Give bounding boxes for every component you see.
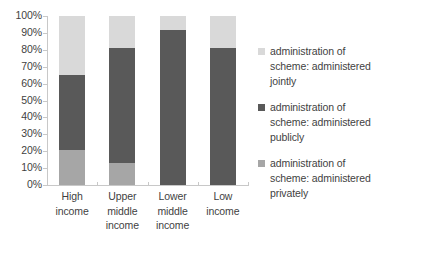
legend-label: administration ofscheme: administeredjoi… <box>270 44 416 89</box>
bar-segment[interactable] <box>109 163 135 185</box>
x-axis-separator <box>47 182 48 186</box>
y-axis-tick-label: 50% <box>0 95 42 106</box>
legend-label-line: scheme: administered <box>270 59 416 74</box>
legend-label-line: publicly <box>270 130 416 145</box>
y-axis-tick-label: 60% <box>0 78 42 89</box>
y-axis-tick-label: 20% <box>0 145 42 156</box>
x-axis-category-line: income <box>148 218 198 233</box>
bar-column[interactable] <box>210 16 236 185</box>
legend-color-swatch <box>258 48 265 55</box>
x-axis-category-line: middle <box>97 204 147 219</box>
x-axis-category-line: High <box>47 189 97 204</box>
y-axis-tick-mark <box>43 67 47 68</box>
y-axis-tick-label: 30% <box>0 128 42 139</box>
bar-segment[interactable] <box>160 30 186 185</box>
x-axis-category-line: income <box>97 218 147 233</box>
bar-segment[interactable] <box>210 48 236 185</box>
x-axis-category-label: Highincome <box>47 189 97 218</box>
y-axis-tick-label: 70% <box>0 61 42 72</box>
legend-label-line: administration of <box>270 100 416 115</box>
legend-label-line: scheme: administered <box>270 115 416 130</box>
legend-label-line: jointly <box>270 74 416 89</box>
legend-item[interactable]: administration ofscheme: administeredpub… <box>258 100 421 145</box>
x-axis-labels: HighincomeUppermiddleincomeLowermiddlein… <box>47 189 249 251</box>
legend-color-swatch <box>258 104 265 111</box>
chart-container: 100%90%80%70%60%50%40%30%20%10%0% Highin… <box>0 0 423 255</box>
legend-label: administration ofscheme: administeredpri… <box>270 156 416 201</box>
bar-segment[interactable] <box>210 16 236 48</box>
bar-column[interactable] <box>109 16 135 185</box>
bar-segment[interactable] <box>59 150 85 185</box>
y-axis-tick-label: 100% <box>0 10 42 21</box>
y-axis-tick-label: 80% <box>0 44 42 55</box>
y-axis-tick-label: 40% <box>0 111 42 122</box>
legend-item[interactable]: administration ofscheme: administeredjoi… <box>258 44 421 89</box>
legend-color-swatch <box>258 160 265 167</box>
x-axis-category-line: middle <box>148 204 198 219</box>
plot-area <box>47 16 248 185</box>
bar-column[interactable] <box>59 16 85 185</box>
legend-item[interactable]: administration ofscheme: administeredpri… <box>258 156 421 201</box>
x-axis-category-label: Uppermiddleincome <box>97 189 147 233</box>
y-axis-tick-mark <box>43 101 47 102</box>
legend-label: administration ofscheme: administeredpub… <box>270 100 416 145</box>
y-axis-tick-mark <box>43 84 47 85</box>
legend-label-line: privately <box>270 186 416 201</box>
x-axis-separator <box>198 182 199 186</box>
x-axis-separator <box>148 182 149 186</box>
bar-segment[interactable] <box>109 48 135 163</box>
x-axis-separator <box>248 182 249 186</box>
y-axis-tick-mark <box>43 16 47 17</box>
y-axis-tick-label: 0% <box>0 179 42 190</box>
x-axis-separator <box>97 182 98 186</box>
y-axis-tick-mark <box>43 117 47 118</box>
y-axis-tick-mark <box>43 168 47 169</box>
x-axis-category-line: income <box>198 204 248 219</box>
bar-segment[interactable] <box>160 16 186 30</box>
y-axis-tick-mark <box>43 50 47 51</box>
bar-segment[interactable] <box>109 16 135 48</box>
y-axis-tick-label: 10% <box>0 162 42 173</box>
bar-column[interactable] <box>160 16 186 185</box>
y-axis-tick-mark <box>43 134 47 135</box>
x-axis-category-label: Lowermiddleincome <box>148 189 198 233</box>
y-axis-tick-label: 90% <box>0 27 42 38</box>
bar-segment[interactable] <box>59 75 85 149</box>
chart-legend: administration ofscheme: administeredjoi… <box>258 44 421 212</box>
x-axis-category-line: income <box>47 204 97 219</box>
x-axis-category-label: Lowincome <box>198 189 248 218</box>
y-axis-labels: 100%90%80%70%60%50%40%30%20%10%0% <box>0 0 42 255</box>
x-axis-category-line: Upper <box>97 189 147 204</box>
x-axis-category-line: Lower <box>148 189 198 204</box>
legend-label-line: administration of <box>270 44 416 59</box>
legend-label-line: scheme: administered <box>270 171 416 186</box>
y-axis-tick-mark <box>43 151 47 152</box>
bar-segment[interactable] <box>59 16 85 75</box>
legend-label-line: administration of <box>270 156 416 171</box>
x-axis-category-line: Low <box>198 189 248 204</box>
y-axis-tick-mark <box>43 33 47 34</box>
